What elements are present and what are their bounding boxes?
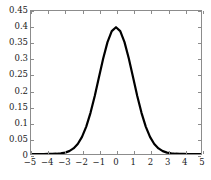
y-tick-right [198,124,201,125]
y-tick-left [31,124,34,125]
y-tick-left [31,156,34,157]
x-tick-label: 5 [192,158,211,167]
y-tick-label: 0.2 [14,87,28,96]
x-tick-bottom [186,151,187,154]
x-tick-bottom [31,151,32,154]
x-tick-bottom [169,151,170,154]
y-tick-label: 0.35 [9,38,28,47]
y-tick-left [31,27,34,28]
y-tick-left [31,75,34,76]
y-tick-right [198,140,201,141]
y-tick-left [31,92,34,93]
x-tick-top [100,11,101,14]
x-tick-top [203,11,204,14]
y-tick-label: 0.4 [14,22,28,31]
x-tick-bottom [134,151,135,154]
y-tick-right [198,108,201,109]
y-tick-label: 0.15 [9,103,28,112]
y-tick-label: 0.1 [14,119,28,128]
chart-figure: 00.050.10.150.20.250.30.350.40.45 −5−4−3… [0,0,211,180]
x-tick-bottom [151,151,152,154]
y-tick-left [31,108,34,109]
y-tick-right [198,75,201,76]
x-tick-top [151,11,152,14]
y-tick-left [31,11,34,12]
x-tick-bottom [203,151,204,154]
x-tick-bottom [48,151,49,154]
x-tick-top [48,11,49,14]
plot-area [30,10,202,155]
x-tick-top [134,11,135,14]
x-tick-top [65,11,66,14]
x-tick-top [169,11,170,14]
y-tick-right [198,156,201,157]
y-tick-right [198,92,201,93]
y-tick-right [198,43,201,44]
x-tick-bottom [65,151,66,154]
y-tick-right [198,11,201,12]
y-tick-left [31,59,34,60]
x-tick-top [186,11,187,14]
y-tick-label: 0.05 [9,135,28,144]
y-tick-right [198,27,201,28]
x-tick-bottom [117,151,118,154]
x-tick-top [117,11,118,14]
y-tick-left [31,43,34,44]
x-tick-top [83,11,84,14]
x-tick-bottom [100,151,101,154]
y-tick-label: 0.25 [9,70,28,79]
y-tick-label: 0.3 [14,54,28,63]
normal-pdf-curve [31,11,201,154]
y-tick-left [31,140,34,141]
y-tick-label: 0.45 [9,6,28,15]
y-tick-right [198,59,201,60]
x-tick-bottom [83,151,84,154]
